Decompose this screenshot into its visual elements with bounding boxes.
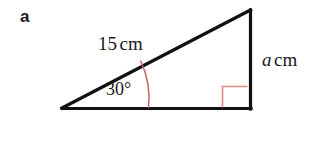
angle-unit: ° <box>124 79 131 99</box>
opposite-unit: cm <box>274 49 297 70</box>
hypotenuse-value: 15 <box>98 33 117 54</box>
geometry-figure: a 15cm acm 30° <box>0 0 323 145</box>
hypotenuse-unit: cm <box>120 33 143 54</box>
angle-measure-label: 30° <box>106 80 131 98</box>
right-angle-square-marker <box>223 87 248 108</box>
opposite-side-length-label: acm <box>262 50 297 69</box>
opposite-variable: a <box>262 49 272 70</box>
hypotenuse-length-label: 15cm <box>98 34 143 53</box>
triangle-drawing <box>0 0 323 145</box>
part-label: a <box>20 8 29 25</box>
angle-value: 30 <box>106 79 124 99</box>
